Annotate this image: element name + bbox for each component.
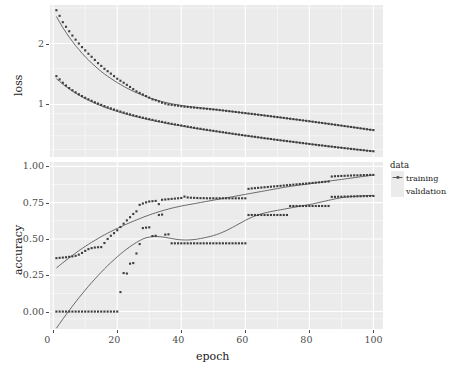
x-tick-label: 40: [172, 334, 184, 345]
accuracy-y-tick: [46, 203, 49, 204]
accuracy-y-tick: [46, 166, 49, 167]
legend-title: data: [390, 160, 409, 170]
accuracy-y-tick: [46, 275, 49, 276]
x-tick-label: 20: [108, 334, 120, 345]
legend-label-validation[interactable]: validation: [406, 187, 446, 196]
x-tick-label: 80: [300, 334, 312, 345]
chart-figure: 020406080100210.000.250.500.751.00 epoch…: [0, 0, 449, 373]
x-tick: [53, 330, 54, 333]
legend-key-training: [391, 171, 404, 184]
x-tick: [181, 330, 182, 333]
x-tick-label: 60: [236, 334, 248, 345]
loss-y-tick-label: 2: [16, 38, 44, 49]
loss-y-tick: [46, 104, 49, 105]
accuracy-y-tick-label: 1.00: [16, 160, 44, 171]
accuracy-axis-title: accuracy: [12, 225, 25, 275]
legend: data training validation: [390, 160, 448, 202]
x-tick: [117, 330, 118, 333]
loss-y-tick: [46, 44, 49, 45]
x-tick-label: 100: [364, 334, 382, 345]
accuracy-y-tick-label: 0.75: [16, 197, 44, 208]
accuracy-panel: [50, 162, 383, 329]
x-tick-label: 0: [44, 334, 50, 345]
legend-label-training[interactable]: training: [406, 174, 438, 183]
loss-y-tick-label: 1: [16, 98, 44, 109]
x-tick: [245, 330, 246, 333]
accuracy-y-tick: [46, 312, 49, 313]
x-tick: [309, 330, 310, 333]
x-tick: [373, 330, 374, 333]
loss-axis-title: loss: [12, 75, 25, 96]
loss-panel: [50, 5, 383, 157]
legend-key-validation: [391, 184, 404, 197]
accuracy-y-tick: [46, 239, 49, 240]
accuracy-y-tick-label: 0.00: [16, 306, 44, 317]
x-axis-title: epoch: [196, 350, 229, 363]
